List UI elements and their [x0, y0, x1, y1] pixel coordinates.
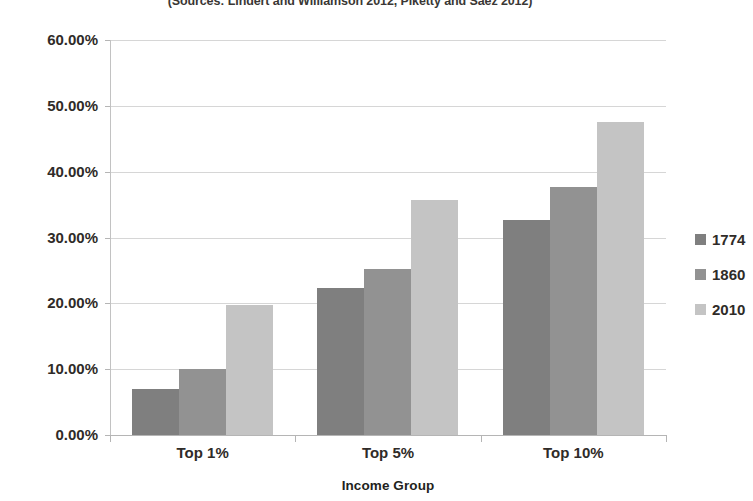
legend-item-2010[interactable]: 2010	[695, 292, 753, 327]
bar-1860-top-10[interactable]	[550, 187, 597, 435]
legend-item-1860[interactable]: 1860	[695, 257, 753, 292]
x-axis-tick	[666, 435, 667, 442]
x-axis-tick-label: Top 10%	[481, 444, 666, 461]
bar-2010-top-5[interactable]	[411, 200, 458, 435]
bar-group: Top 10%	[481, 40, 666, 435]
x-axis-tick-label: Top 5%	[295, 444, 480, 461]
x-axis-tick	[295, 435, 296, 442]
bar-2010-top-10[interactable]	[597, 122, 644, 435]
bar-1774-top-1[interactable]	[132, 389, 179, 435]
x-axis-tick	[481, 435, 482, 442]
y-axis-tick-label: 30.00%	[8, 229, 98, 246]
bars	[481, 40, 666, 435]
y-axis-tick-label: 40.00%	[8, 163, 98, 180]
bar-group: Top 5%	[295, 40, 480, 435]
y-axis-tick-label: 0.00%	[8, 426, 98, 443]
x-axis-tick	[110, 435, 111, 442]
bar-2010-top-1[interactable]	[226, 305, 273, 435]
legend-label: 2010	[712, 301, 745, 318]
chart-subtitle: (Sources: Lindert and Williamson 2012, P…	[0, 0, 700, 8]
bar-chart: (Sources: Lindert and Williamson 2012, P…	[0, 0, 753, 501]
legend-item-1774[interactable]: 1774	[695, 222, 753, 257]
legend-label: 1774	[712, 231, 745, 248]
x-axis-line	[110, 435, 666, 436]
y-axis-tick-label: 60.00%	[8, 31, 98, 48]
bar-1860-top-5[interactable]	[364, 269, 411, 435]
legend-swatch-icon	[695, 304, 706, 315]
bar-1774-top-5[interactable]	[317, 288, 364, 435]
legend: 177418602010	[695, 222, 753, 327]
x-axis-title: Income Group	[110, 478, 666, 493]
bar-1860-top-1[interactable]	[179, 369, 226, 435]
y-axis-tick-label: 20.00%	[8, 294, 98, 311]
bars	[295, 40, 480, 435]
x-axis-tick-label: Top 1%	[110, 444, 295, 461]
y-axis-tick-label: 50.00%	[8, 97, 98, 114]
legend-swatch-icon	[695, 234, 706, 245]
bar-groups: Top 1%Top 5%Top 10%	[110, 40, 666, 435]
legend-swatch-icon	[695, 269, 706, 280]
legend-label: 1860	[712, 266, 745, 283]
bar-group: Top 1%	[110, 40, 295, 435]
y-axis-tick-label: 10.00%	[8, 360, 98, 377]
bar-1774-top-10[interactable]	[503, 220, 550, 435]
bars	[110, 40, 295, 435]
plot-area: Top 1%Top 5%Top 10%	[110, 40, 666, 435]
